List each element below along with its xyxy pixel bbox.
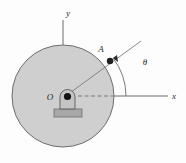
point-a-label: A: [97, 44, 104, 54]
center-pin: [64, 93, 71, 100]
theta-arc: [113, 58, 126, 96]
figure-canvas: y x A O θ: [0, 0, 186, 163]
theta-label: θ: [143, 57, 148, 67]
point-a-marker: [107, 58, 113, 64]
center-o-label: O: [47, 92, 54, 102]
mechanics-figure: y x A O θ: [0, 0, 186, 163]
x-axis-label: x: [171, 91, 176, 101]
bearing-base: [54, 109, 82, 117]
y-axis-label: y: [65, 8, 70, 18]
